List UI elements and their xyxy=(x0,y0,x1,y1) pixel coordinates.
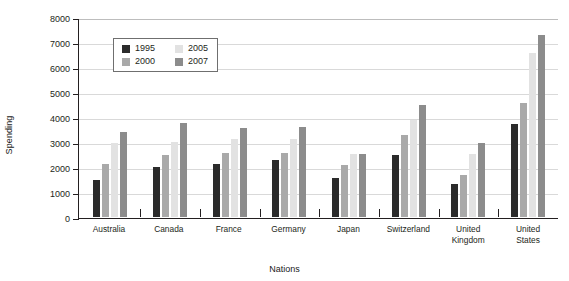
bar-2000-germany xyxy=(281,153,288,217)
bar-2007-australia xyxy=(120,132,127,217)
y-axis-tick-label: 5000 xyxy=(50,89,70,99)
bar-2000-united-kingdom xyxy=(460,175,467,216)
legend-label: 2005 xyxy=(188,44,208,53)
bar-2000-canada xyxy=(162,155,169,216)
x-axis-label: Switzerland xyxy=(378,224,438,246)
x-axis-label: Germany xyxy=(259,224,319,246)
bar-chart: Spending 8000700060005000400030002000100… xyxy=(0,0,569,281)
bar-group xyxy=(498,19,558,217)
bar-2005-switzerland xyxy=(410,120,417,216)
y-axis-tick xyxy=(73,69,79,70)
y-axis-tick-label: 8000 xyxy=(50,14,70,24)
bar-2007-france xyxy=(240,128,247,217)
bar-2007-switzerland xyxy=(419,105,426,216)
x-axis-title: Nations xyxy=(0,264,569,274)
x-axis-label: UnitedKingdom xyxy=(438,224,498,246)
legend-label: 2007 xyxy=(188,57,208,66)
y-axis-tick xyxy=(73,19,79,20)
y-axis-tick-label: 1000 xyxy=(50,189,70,199)
x-axis-label: UnitedStates xyxy=(498,224,558,246)
y-axis-tick xyxy=(73,119,79,120)
legend-swatch-icon xyxy=(122,58,130,66)
bar-2000-switzerland xyxy=(401,135,408,216)
bar-1995-germany xyxy=(272,160,279,216)
x-axis-category-labels: AustraliaCanadaFranceGermanyJapanSwitzer… xyxy=(79,224,558,246)
y-axis-tick-label: 3000 xyxy=(50,139,70,149)
legend-entry-2007: 2007 xyxy=(175,57,208,66)
bar-2000-australia xyxy=(102,164,109,217)
y-axis-tick-label: 2000 xyxy=(50,164,70,174)
x-axis-label: France xyxy=(199,224,259,246)
bar-2007-germany xyxy=(299,127,306,217)
x-axis-label: Australia xyxy=(79,224,139,246)
y-axis-tick xyxy=(73,144,79,145)
legend-entry-2005: 2005 xyxy=(175,44,208,53)
y-axis-tick xyxy=(73,44,79,45)
bar-group xyxy=(379,19,439,217)
bar-group xyxy=(439,19,499,217)
bar-2005-canada xyxy=(171,142,178,217)
bar-2007-united-kingdom xyxy=(478,143,485,217)
x-axis-label: Japan xyxy=(319,224,379,246)
bar-1995-united-kingdom xyxy=(451,184,458,217)
bar-2007-japan xyxy=(359,154,366,217)
bar-2000-japan xyxy=(341,165,348,216)
legend-swatch-icon xyxy=(175,58,183,66)
legend-entry-1995: 1995 xyxy=(122,44,155,53)
bar-2005-united-kingdom xyxy=(469,154,476,217)
bar-1995-canada xyxy=(153,167,160,217)
legend-entry-2000: 2000 xyxy=(122,57,155,66)
bar-2005-germany xyxy=(290,139,297,217)
y-axis-title: Spending xyxy=(4,90,14,180)
bar-1995-australia xyxy=(93,180,100,216)
y-axis-tick-label: 0 xyxy=(65,214,70,224)
bar-2005-japan xyxy=(350,154,357,217)
legend-label: 1995 xyxy=(135,44,155,53)
legend-label: 2000 xyxy=(135,57,155,66)
bar-group xyxy=(319,19,379,217)
y-axis-tick xyxy=(73,219,79,220)
bar-2007-united-states xyxy=(538,35,545,216)
bar-1995-switzerland xyxy=(392,155,399,216)
y-axis-tick xyxy=(73,94,79,95)
bar-2005-australia xyxy=(111,143,118,217)
bar-2000-united-states xyxy=(520,103,527,217)
bar-1995-united-states xyxy=(511,124,518,217)
y-axis-tick-label: 4000 xyxy=(50,114,70,124)
bar-group xyxy=(260,19,320,217)
bar-2000-france xyxy=(222,153,229,217)
bar-2005-united-states xyxy=(529,53,536,217)
chart-legend: 1995200520002007 xyxy=(113,38,218,72)
y-axis-tick-label: 7000 xyxy=(50,39,70,49)
bar-2007-canada xyxy=(180,123,187,217)
x-axis-label: Canada xyxy=(139,224,199,246)
bar-2005-france xyxy=(231,139,238,217)
legend-swatch-icon xyxy=(122,45,130,53)
bar-1995-japan xyxy=(332,178,339,217)
y-axis-tick-label: 6000 xyxy=(50,64,70,74)
bar-1995-france xyxy=(213,164,220,217)
y-axis-tick xyxy=(73,194,79,195)
y-axis-tick xyxy=(73,169,79,170)
legend-swatch-icon xyxy=(175,45,183,53)
